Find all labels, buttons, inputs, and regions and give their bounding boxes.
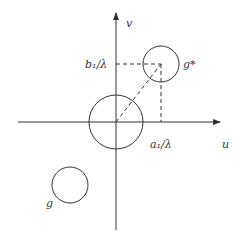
g-label: g xyxy=(46,197,53,210)
b-tick-label: b₁/λ xyxy=(85,58,107,71)
a-tick-label: a₁/λ xyxy=(150,138,172,151)
g-star-label: g* xyxy=(183,58,196,71)
v-axis-label: v xyxy=(126,17,133,30)
g-circle xyxy=(52,167,88,203)
diagram-canvas: v u b₁/λ a₁/λ g* g xyxy=(0,0,239,241)
diagonal-dashed-guide xyxy=(116,64,161,122)
u-axis-label: u xyxy=(222,138,229,151)
